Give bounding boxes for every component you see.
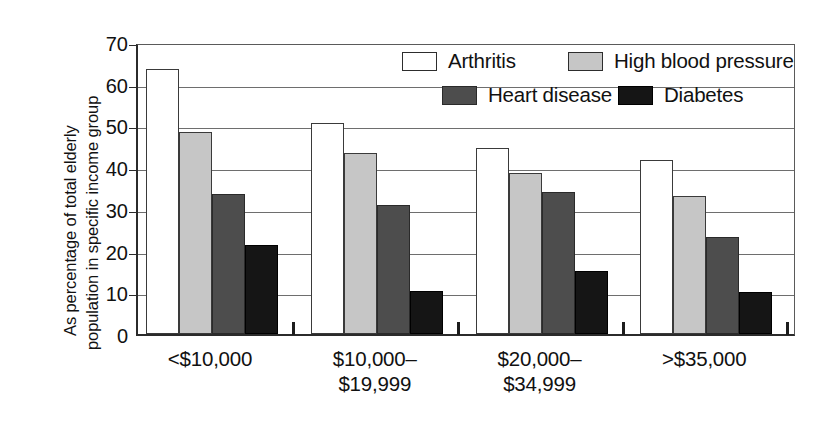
legend-item-high-blood-pressure[interactable]: High blood pressure (568, 51, 794, 72)
y-axis-tick-mark (129, 45, 138, 46)
bar[interactable] (739, 292, 772, 334)
y-axis-tick-mark (129, 128, 138, 129)
x-axis-category-label-line: $10,000– (295, 346, 455, 371)
y-axis-tick-label: 60 (94, 76, 128, 96)
y-axis-tick-label: 40 (94, 159, 128, 179)
legend-row-2: Heart disease Diabetes (400, 80, 800, 110)
y-axis-tick-label: 20 (94, 243, 128, 263)
bar[interactable] (542, 192, 575, 334)
bar[interactable] (179, 132, 212, 334)
bar[interactable] (673, 196, 706, 334)
bar[interactable] (245, 245, 278, 334)
y-axis-tick-mark (129, 212, 138, 213)
y-axis-tick-label: 10 (94, 284, 128, 304)
x-axis-category-label-line: $20,000– (460, 346, 620, 371)
legend-item-heart-disease[interactable]: Heart disease (442, 85, 612, 106)
x-axis-category-label: <$10,000 (130, 346, 290, 371)
y-axis-tick-mark (129, 295, 138, 296)
x-axis-tick-labels: <$10,000$10,000–$19,999$20,000–$34,999>$… (136, 346, 795, 416)
legend-item-diabetes[interactable]: Diabetes (618, 85, 743, 106)
bar[interactable] (344, 153, 377, 334)
y-axis-tick-label: 30 (94, 201, 128, 221)
bar[interactable] (575, 271, 608, 334)
legend-label-arthritis: Arthritis (448, 51, 516, 72)
bar[interactable] (146, 69, 179, 334)
legend-label-heart-disease: Heart disease (488, 85, 612, 106)
legend-swatch-arthritis-icon (402, 52, 437, 71)
x-axis-category-label-line: $19,999 (295, 371, 455, 396)
bar[interactable] (509, 173, 542, 334)
y-axis-tick-labels: 010203040506070 (88, 0, 128, 423)
legend-label-diabetes: Diabetes (664, 85, 743, 106)
bar[interactable] (640, 160, 673, 334)
bar[interactable] (476, 148, 509, 334)
bar[interactable] (377, 205, 410, 334)
x-axis-category-label: >$35,000 (624, 346, 784, 371)
y-axis-tick-label: 0 (94, 326, 128, 346)
x-axis-category-label-line: <$10,000 (130, 346, 290, 371)
x-axis-category-label-line: >$35,000 (624, 346, 784, 371)
legend-item-arthritis[interactable]: Arthritis (402, 51, 516, 72)
bar-group (146, 45, 278, 334)
y-axis-tick-mark (129, 170, 138, 171)
y-axis-tick-label: 70 (94, 34, 128, 54)
bar[interactable] (706, 237, 739, 334)
legend-swatch-diabetes-icon (618, 86, 653, 105)
x-axis-category-label-line: $34,999 (460, 371, 620, 396)
bar[interactable] (311, 123, 344, 334)
x-axis-category-label: $10,000–$19,999 (295, 346, 455, 396)
bar[interactable] (410, 291, 443, 334)
x-axis-tick-mark (786, 322, 789, 335)
bar[interactable] (212, 194, 245, 334)
x-axis-tick-mark (292, 322, 295, 335)
y-axis-title-line-1: As percentage of total elderly (61, 125, 80, 336)
legend-row-1: Arthritis High blood pressure (400, 46, 800, 76)
y-axis-tick-mark (129, 254, 138, 255)
x-axis-category-label: $20,000–$34,999 (460, 346, 620, 396)
x-axis-tick-mark (622, 322, 625, 335)
y-axis-tick-mark (129, 87, 138, 88)
legend-swatch-heart-disease-icon (442, 86, 477, 105)
legend-swatch-high-blood-pressure-icon (568, 52, 603, 71)
x-axis-tick-mark (457, 322, 460, 335)
legend-label-high-blood-pressure: High blood pressure (614, 51, 794, 72)
bar-chart: As percentage of total elderly populatio… (0, 0, 838, 423)
legend: Arthritis High blood pressure Heart dise… (400, 46, 800, 112)
y-axis-tick-label: 50 (94, 117, 128, 137)
